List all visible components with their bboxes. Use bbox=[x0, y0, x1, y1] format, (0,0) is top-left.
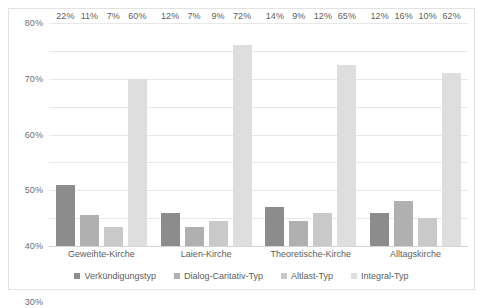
legend-item[interactable]: Integral-Typ bbox=[351, 271, 409, 281]
bar[interactable]: 7% bbox=[104, 227, 123, 247]
bar-slot: 65% bbox=[337, 23, 356, 246]
category-axis: Geweihte-KircheLaien-KircheTheoretische-… bbox=[49, 249, 468, 265]
bar[interactable]: 12% bbox=[313, 213, 332, 246]
bar-group: 22%11%7%60% bbox=[49, 23, 154, 246]
legend-swatch-icon bbox=[74, 273, 80, 279]
bar[interactable]: 10% bbox=[418, 218, 437, 246]
bar[interactable]: 12% bbox=[161, 213, 180, 246]
legend-label: Integral-Typ bbox=[361, 271, 409, 281]
category-axis-label: Alltagskirche bbox=[363, 249, 468, 265]
bar-value-label: 12% bbox=[161, 11, 179, 21]
bar-slot: 9% bbox=[289, 23, 308, 246]
bar-group: 12%16%10%62% bbox=[363, 23, 468, 246]
bar-value-label: 65% bbox=[338, 11, 356, 21]
bar-slot: 62% bbox=[442, 23, 461, 246]
y-axis-tick-label: 60% bbox=[25, 130, 43, 140]
bar[interactable]: 65% bbox=[337, 65, 356, 246]
bar[interactable]: 7% bbox=[185, 227, 204, 247]
bar-slot: 11% bbox=[80, 23, 99, 246]
y-axis-tick-label: 40% bbox=[25, 241, 43, 251]
bar-value-label: 12% bbox=[314, 11, 332, 21]
bar[interactable]: 11% bbox=[80, 215, 99, 246]
legend-label: Dialog-Caritativ-Typ bbox=[184, 271, 263, 281]
bar-value-label: 9% bbox=[212, 11, 225, 21]
bar-value-label: 60% bbox=[128, 11, 146, 21]
category-axis-label: Theoretische-Kirche bbox=[259, 249, 364, 265]
y-axis-tick-label: 50% bbox=[25, 185, 43, 195]
axis-baseline: 0% bbox=[49, 246, 468, 247]
bar[interactable]: 22% bbox=[56, 185, 75, 246]
bar-value-label: 11% bbox=[81, 11, 98, 21]
bar-value-label: 9% bbox=[292, 11, 305, 21]
bar-slot: 7% bbox=[185, 23, 204, 246]
bar-slot: 60% bbox=[128, 23, 147, 246]
y-axis-tick-label: 70% bbox=[25, 74, 43, 84]
bar-groups-layer: 22%11%7%60%12%7%9%72%14%9%12%65%12%16%10… bbox=[49, 23, 468, 246]
legend-swatch-icon bbox=[174, 273, 180, 279]
bar-slot: 72% bbox=[233, 23, 252, 246]
legend-item[interactable]: Verkündigungstyp bbox=[74, 271, 156, 281]
bar-value-label: 62% bbox=[443, 11, 461, 21]
bar-value-label: 16% bbox=[395, 11, 413, 21]
bar-value-label: 10% bbox=[419, 11, 437, 21]
category-axis-label: Geweihte-Kirche bbox=[49, 249, 154, 265]
chart-legend: VerkündigungstypDialog-Caritativ-TypAltl… bbox=[9, 271, 474, 281]
chart-plot-frame: 0%10%20%30%40%50%60%70%80% 22%11%7%60%12… bbox=[8, 8, 475, 290]
bar-slot: 16% bbox=[394, 23, 413, 246]
plot-area: 0%10%20%30%40%50%60%70%80% 22%11%7%60%12… bbox=[49, 23, 468, 246]
bar-slot: 10% bbox=[418, 23, 437, 246]
bar-slot: 7% bbox=[104, 23, 123, 246]
bar[interactable]: 9% bbox=[289, 221, 308, 246]
bar-slot: 12% bbox=[370, 23, 389, 246]
bar-value-label: 12% bbox=[371, 11, 389, 21]
category-axis-label: Laien-Kirche bbox=[154, 249, 259, 265]
bar[interactable]: 16% bbox=[394, 201, 413, 246]
legend-swatch-icon bbox=[351, 273, 357, 279]
bar[interactable]: 9% bbox=[209, 221, 228, 246]
bar[interactable]: 12% bbox=[370, 213, 389, 246]
bar-group: 12%7%9%72% bbox=[154, 23, 259, 246]
bar[interactable]: 14% bbox=[265, 207, 284, 246]
bar[interactable]: 72% bbox=[233, 45, 252, 246]
legend-swatch-icon bbox=[281, 273, 287, 279]
bar-value-label: 14% bbox=[266, 11, 284, 21]
bar-value-label: 7% bbox=[107, 11, 120, 21]
y-axis-tick-label: 30% bbox=[25, 297, 43, 307]
legend-label: Verkündigungstyp bbox=[84, 271, 156, 281]
bar-slot: 12% bbox=[313, 23, 332, 246]
bar-value-label: 72% bbox=[233, 11, 251, 21]
bar-slot: 22% bbox=[56, 23, 75, 246]
bar-value-label: 7% bbox=[188, 11, 201, 21]
legend-item[interactable]: Altlast-Typ bbox=[281, 271, 333, 281]
bar-slot: 12% bbox=[161, 23, 180, 246]
bar-group: 14%9%12%65% bbox=[259, 23, 364, 246]
bar[interactable]: 62% bbox=[442, 73, 461, 246]
bar-value-label: 22% bbox=[56, 11, 74, 21]
y-axis-tick-label: 80% bbox=[25, 18, 43, 28]
bar[interactable]: 60% bbox=[128, 79, 147, 246]
legend-item[interactable]: Dialog-Caritativ-Typ bbox=[174, 271, 263, 281]
bar-slot: 14% bbox=[265, 23, 284, 246]
legend-label: Altlast-Typ bbox=[291, 271, 333, 281]
bar-chart-figure: 0%10%20%30%40%50%60%70%80% 22%11%7%60%12… bbox=[0, 0, 483, 308]
bar-slot: 9% bbox=[209, 23, 228, 246]
